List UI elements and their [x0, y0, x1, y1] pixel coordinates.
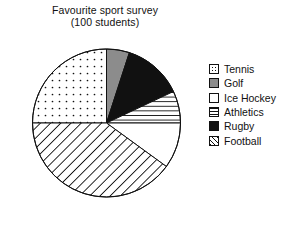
legend-item-tennis[interactable]: Tennis — [209, 62, 294, 76]
legend-item-football[interactable]: Football — [209, 133, 294, 147]
legend-swatch-golf — [209, 78, 219, 88]
legend-label-tennis: Tennis — [224, 63, 254, 75]
legend-swatch-football — [209, 136, 219, 146]
legend-swatch-rugby — [209, 121, 219, 131]
pie-chart-figure: Favourite sport survey (100 students) — [0, 0, 294, 227]
pie-svg — [0, 0, 210, 227]
pie-plot-area — [0, 0, 210, 227]
legend-swatch-ice-hockey — [209, 93, 219, 103]
pie-slices — [33, 49, 181, 197]
legend-item-rugby[interactable]: Rugby — [209, 119, 294, 133]
chart-legend: Tennis Golf Ice Hockey Athletics Rugby F… — [209, 62, 294, 148]
legend-label-athletics: Athletics — [224, 106, 264, 118]
legend-swatch-athletics — [209, 107, 219, 117]
legend-label-rugby: Rugby — [224, 120, 254, 132]
legend-item-athletics[interactable]: Athletics — [209, 105, 294, 119]
legend-item-ice-hockey[interactable]: Ice Hockey — [209, 91, 294, 105]
legend-label-golf: Golf — [224, 77, 243, 89]
legend-item-golf[interactable]: Golf — [209, 76, 294, 90]
pie-slice-tennis[interactable] — [33, 49, 107, 123]
legend-swatch-tennis — [209, 64, 219, 74]
legend-label-ice-hockey: Ice Hockey — [224, 92, 276, 104]
legend-label-football: Football — [224, 135, 261, 147]
